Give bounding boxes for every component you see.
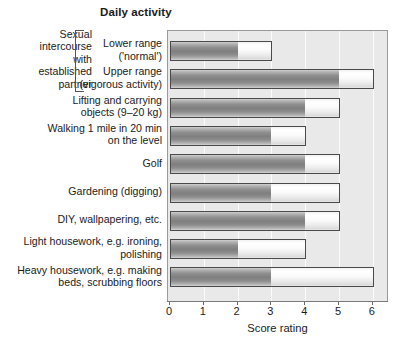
category-label-line-2: beds, scrubbing floors xyxy=(17,276,162,288)
bar-segment-dark xyxy=(170,41,239,61)
category-label-line-1: Golf xyxy=(143,157,162,169)
bar-row xyxy=(168,126,387,146)
x-axis-title: Score rating xyxy=(167,322,388,334)
bar-segment-dark xyxy=(170,239,239,259)
category-label-line-2: ('normal') xyxy=(103,50,162,62)
category-label: Golf xyxy=(143,157,162,169)
bar-segment-dark xyxy=(170,69,340,89)
bar-segment-light xyxy=(305,211,340,231)
bar-row xyxy=(168,211,387,231)
category-label-line-1: Lower range xyxy=(103,37,162,49)
bar-segment-light xyxy=(238,239,307,259)
bar-row xyxy=(168,267,387,287)
x-tick-label: 3 xyxy=(260,305,280,317)
bar-segment-dark xyxy=(170,211,306,231)
category-label: Walking 1 mile in 20 minon the level xyxy=(48,122,162,147)
category-axis-labels: Lower range('normal')Upper range(vigorou… xyxy=(0,0,165,310)
bar-segment-light xyxy=(271,183,340,203)
x-tick-label: 5 xyxy=(328,305,348,317)
category-label-line-1: Walking 1 mile in 20 min xyxy=(48,122,162,134)
x-tick-label: 0 xyxy=(159,305,179,317)
chart-figure: Daily activity Sexual intercourse with e… xyxy=(0,0,405,349)
bar-segment-light xyxy=(238,41,273,61)
bar-segment-light xyxy=(305,154,340,174)
category-label-line-2: on the level xyxy=(48,134,162,146)
bar-segment-dark xyxy=(170,267,272,287)
bar-row xyxy=(168,41,387,61)
category-label: Heavy housework, e.g. makingbeds, scrubb… xyxy=(17,264,162,289)
bar-segment-light xyxy=(305,98,340,118)
category-label: Upper range(vigorous activity) xyxy=(80,65,162,90)
x-tick-label: 6 xyxy=(362,305,382,317)
category-label-line-1: Upper range xyxy=(80,65,162,77)
category-label: Lifting and carryingobjects (9–20 kg) xyxy=(72,94,162,119)
category-label-line-2: objects (9–20 kg) xyxy=(72,106,162,118)
bar-segment-dark xyxy=(170,154,306,174)
bar-segment-dark xyxy=(170,98,306,118)
x-axis-line xyxy=(167,301,388,302)
category-label-line-2: polishing xyxy=(24,248,162,260)
bar-row xyxy=(168,183,387,203)
category-label-line-1: Gardening (digging) xyxy=(68,185,162,197)
category-label-line-1: Light housework, e.g. ironing, xyxy=(24,235,162,247)
category-label: Light housework, e.g. ironing,polishing xyxy=(24,235,162,260)
bar-row xyxy=(168,69,387,89)
category-label-line-2: (vigorous activity) xyxy=(80,78,162,90)
bar-segment-dark xyxy=(170,126,272,146)
bar-segment-light xyxy=(339,69,374,89)
category-label: Gardening (digging) xyxy=(68,185,162,197)
category-label-line-1: Heavy housework, e.g. making xyxy=(17,264,162,276)
plot-area xyxy=(167,30,388,302)
category-label-line-1: Lifting and carrying xyxy=(72,94,162,106)
category-label-line-1: DIY, wallpapering, etc. xyxy=(57,213,162,225)
category-label: DIY, wallpapering, etc. xyxy=(57,213,162,225)
bar-row xyxy=(168,154,387,174)
bar-row xyxy=(168,239,387,259)
bar-segment-dark xyxy=(170,183,272,203)
category-label: Lower range('normal') xyxy=(103,37,162,62)
x-tick-label: 1 xyxy=(193,305,213,317)
bar-segment-light xyxy=(271,126,306,146)
bar-segment-light xyxy=(271,267,373,287)
x-tick-label: 4 xyxy=(294,305,314,317)
x-tick-label: 2 xyxy=(227,305,247,317)
bar-row xyxy=(168,98,387,118)
